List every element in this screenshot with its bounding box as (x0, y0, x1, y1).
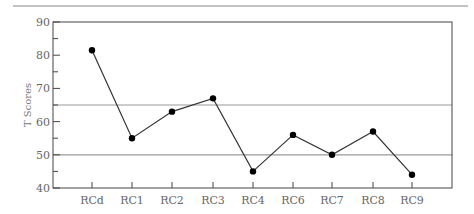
data-point-rc7 (329, 152, 335, 158)
y-tick-label: 60 (36, 116, 50, 129)
x-tick-label-rc7: RC7 (320, 194, 344, 207)
x-tick-label-rc8: RC8 (361, 194, 385, 207)
data-point-rc6 (290, 132, 296, 138)
y-tick-label: 50 (36, 149, 50, 162)
x-tick-label-rc3: RC3 (201, 194, 225, 207)
data-point-rc3 (210, 95, 216, 101)
x-tick-label-rc1: RC1 (120, 194, 144, 207)
y-tick-label: 90 (36, 16, 50, 29)
data-point-rc1 (129, 135, 135, 141)
x-tick-label-rc2: RC2 (160, 194, 184, 207)
y-tick-label: 70 (36, 82, 50, 95)
y-tick-label: 80 (36, 49, 50, 62)
y-tick-label: 40 (36, 182, 50, 195)
x-tick-label-rc4: RC4 (241, 194, 265, 207)
data-point-rc4 (250, 168, 256, 174)
series-line (92, 50, 412, 175)
y-axis: 405060708090 (36, 16, 60, 195)
data-point-rcd (89, 47, 95, 53)
data-point-rc8 (370, 128, 376, 134)
data-point-rc9 (409, 172, 415, 178)
reference-lines (53, 105, 452, 155)
x-tick-label-rcd: RCd (80, 194, 104, 207)
x-tick-label-rc6: RC6 (281, 194, 305, 207)
data-point-rc2 (169, 108, 175, 114)
x-tick-label-rc9: RC9 (400, 194, 424, 207)
t-score-line-chart: 405060708090 RCdRC1RC2RC3RC4RC6RC7RC8RC9… (0, 0, 474, 214)
data-markers (89, 47, 415, 178)
x-axis: RCdRC1RC2RC3RC4RC6RC7RC8RC9 (80, 182, 424, 207)
y-axis-title: T Scores (22, 83, 33, 127)
